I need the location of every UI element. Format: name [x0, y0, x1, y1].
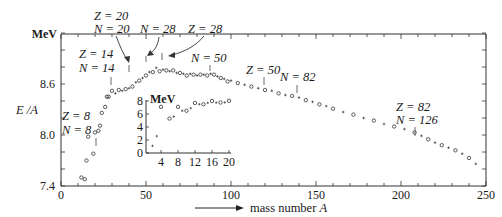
x-tick-label: 250	[477, 188, 495, 202]
label-n8: N = 8	[61, 123, 92, 137]
label-n20: N = 20	[93, 22, 130, 36]
x-tick-label: 50	[140, 188, 152, 202]
inset-x-tick-label: 20	[223, 155, 235, 169]
inset-x-tick-labels: 48121620	[158, 155, 235, 169]
label-n14: N = 14	[78, 61, 115, 75]
label-z28: Z = 28	[188, 22, 223, 36]
y-tick-label: 7.4	[40, 179, 55, 193]
x-axis-label-var: A	[318, 201, 327, 215]
svg-text:mass number A: mass number A	[250, 201, 327, 215]
label-z50: Z = 50	[246, 63, 281, 77]
inset-x-tick-label: 4	[158, 155, 164, 169]
inset-y-tick-label: 8	[137, 94, 143, 108]
y-axis-label: E /A	[15, 103, 38, 117]
label-z82: Z = 82	[396, 100, 430, 114]
label-z8: Z = 8	[62, 109, 91, 123]
label-z20: Z = 20	[94, 9, 129, 23]
x-tick-label: 0	[58, 188, 64, 202]
inset-data-points	[151, 99, 230, 147]
inset-y-tick-label: 4	[137, 120, 143, 134]
x-tick-label: 100	[222, 188, 240, 202]
label-n28: N = 28	[139, 22, 176, 36]
inset-y-tick-label: 0	[137, 146, 143, 160]
inset-x-tick-label: 16	[206, 155, 218, 169]
x-tick-label: 150	[307, 188, 325, 202]
inset-x-tick-label: 12	[189, 155, 201, 169]
label-n126: N = 126	[395, 113, 439, 127]
magic-number-annotations: Z = 8 N = 8 Z = 14 N = 14 Z = 20 N = 20 …	[61, 9, 439, 146]
x-tick-labels: 050100150200250	[58, 188, 495, 202]
x-axis-label: mass number A	[195, 201, 327, 215]
label-n82: N = 82	[279, 70, 316, 84]
inset-chart: MeV 02468 48121620	[137, 92, 235, 169]
x-tick-label: 200	[392, 188, 410, 202]
inset-y-tick-label: 6	[137, 107, 143, 121]
inset-y-tick-labels: 02468	[137, 94, 143, 160]
inset-x-tick-label: 8	[175, 155, 181, 169]
x-axis-label-text: mass number	[250, 201, 319, 215]
y-tick-labels: 7.48.08.6	[40, 77, 55, 193]
label-n50: N = 50	[190, 51, 227, 65]
arrow-right-icon	[236, 205, 244, 211]
y-tick-label: 8.0	[40, 128, 55, 142]
inset-y-unit: MeV	[150, 92, 176, 106]
y-unit-label: MeV	[32, 27, 58, 41]
binding-energy-chart: MeV 7.48.08.6 050100150200250 E /A mass …	[0, 0, 502, 217]
inset-y-tick-label: 2	[137, 133, 143, 147]
label-z14: Z = 14	[79, 47, 113, 61]
y-tick-label: 8.6	[40, 77, 55, 91]
